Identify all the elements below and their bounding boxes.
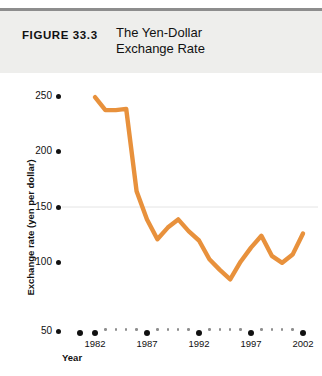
x-tick-minor-1994 bbox=[219, 328, 222, 331]
x-tick-major-2002 bbox=[300, 330, 306, 336]
figure-number-label: FIGURE 33.3 bbox=[22, 29, 98, 41]
x-tick-major-1982 bbox=[92, 330, 98, 336]
x-tick-minor-1996 bbox=[239, 328, 242, 331]
x-tick-minor-2001 bbox=[291, 328, 294, 331]
chart-plot-area: 250 200 150 100 50 Exchange rate (yen pe… bbox=[0, 70, 322, 376]
x-tick-label-1992: 1992 bbox=[179, 338, 219, 349]
y-tick-dot-250 bbox=[56, 94, 61, 99]
x-tick-minor-1988 bbox=[156, 328, 159, 331]
x-tick-minor-1998 bbox=[260, 328, 263, 331]
y-tick-dot-200 bbox=[56, 149, 61, 154]
x-tick-minor-1983 bbox=[104, 328, 107, 331]
figure-header-band: FIGURE 33.3 The Yen-Dollar Exchange Rate bbox=[0, 8, 322, 73]
x-tick-label-1982: 1982 bbox=[75, 338, 115, 349]
figure-title-line-2: Exchange Rate bbox=[116, 41, 301, 57]
y-tick-dot-150 bbox=[56, 205, 61, 210]
y-tick-label-250: 250 bbox=[22, 90, 52, 101]
y-axis-title: Exchange rate (yen per dollar) bbox=[25, 138, 36, 318]
x-tick-minor-1984 bbox=[115, 328, 118, 331]
x-tick-major-1997 bbox=[248, 330, 254, 336]
figure-title-line-1: The Yen-Dollar bbox=[116, 25, 301, 41]
x-tick-major-1987 bbox=[144, 330, 150, 336]
figure-title: The Yen-Dollar Exchange Rate bbox=[116, 25, 301, 57]
x-tick-label-1997: 1997 bbox=[231, 338, 271, 349]
exchange-rate-line bbox=[95, 97, 303, 279]
x-tick-label-1987: 1987 bbox=[127, 338, 167, 349]
x-tick-minor-1999 bbox=[271, 328, 274, 331]
x-tick-minor-1986 bbox=[135, 328, 138, 331]
x-tick-minor-1993 bbox=[208, 328, 211, 331]
y-tick-dot-100 bbox=[56, 260, 61, 265]
x-axis-origin-dot bbox=[77, 330, 83, 336]
x-axis-title: Year bbox=[62, 352, 82, 363]
x-tick-minor-1991 bbox=[187, 328, 190, 331]
x-tick-label-2002: 2002 bbox=[283, 338, 322, 349]
x-tick-minor-1989 bbox=[167, 328, 170, 331]
x-tick-major-1992 bbox=[196, 330, 202, 336]
y-tick-dot-50 bbox=[56, 329, 61, 334]
y-tick-label-50: 50 bbox=[22, 325, 52, 336]
figure-container: FIGURE 33.3 The Yen-Dollar Exchange Rate… bbox=[0, 0, 322, 376]
